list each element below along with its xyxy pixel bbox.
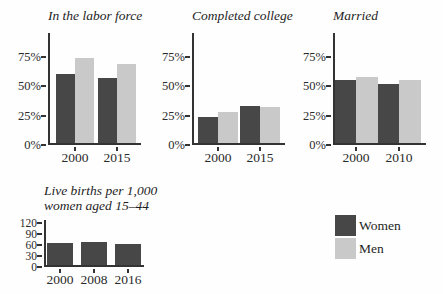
y-tick-label: 50% (303, 78, 326, 94)
y-tick-mark (41, 85, 46, 87)
y-tick-label: 90 (26, 228, 38, 240)
chart-title-line: Live births per 1,000 (44, 183, 144, 198)
y-tick-label: 0% (168, 137, 185, 153)
y-tick-label: 60 (26, 239, 38, 251)
y-tick-mark (326, 56, 331, 58)
chart-labor-force: In the labor force0%25%50%75%20002015 (12, 8, 141, 168)
y-tick-mark (185, 85, 190, 87)
y-tick-mark (37, 222, 42, 224)
x-category-label: 2015 (92, 150, 142, 166)
y-tick-label: 0% (309, 137, 326, 153)
y-axis-line (48, 33, 50, 145)
bar-men-2015 (260, 107, 280, 145)
x-axis-labels: 20002010 (333, 150, 426, 168)
x-axis-line (44, 265, 144, 267)
y-tick-label: 0% (24, 137, 41, 153)
chart-title: Completed college (192, 8, 285, 23)
bar-men-2000 (218, 112, 238, 145)
x-axis-line (48, 143, 141, 145)
y-tick-label: 50% (162, 78, 185, 94)
y-tick-label: 25% (162, 108, 185, 124)
bar-women-2000 (56, 74, 75, 145)
legend-swatch-men (335, 238, 356, 259)
y-tick-label: 25% (18, 108, 41, 124)
y-axis-line (192, 33, 194, 145)
chart-body: 0%25%50%75% (156, 33, 285, 145)
bar-women-2000 (334, 80, 356, 145)
chart-title: Live births per 1,000women aged 15–44 (44, 183, 144, 213)
y-tick-mark (37, 233, 42, 235)
x-category-label: 2016 (103, 272, 153, 288)
legend-item-women: Women (335, 215, 401, 236)
y-tick-mark (185, 56, 190, 58)
plot-area (192, 33, 285, 145)
y-tick-mark (37, 255, 42, 257)
legend-label-men: Men (359, 241, 384, 257)
y-tick-mark (37, 244, 42, 246)
x-axis-line (333, 143, 426, 145)
plot-area (48, 33, 141, 145)
chart-title: In the labor force (48, 8, 141, 23)
y-tick-mark (326, 144, 331, 146)
chart-married: Married0%25%50%75%20002010 (297, 8, 426, 168)
chart-title-line: women aged 15–44 (44, 198, 144, 213)
y-axis-labels: 0%25%50%75% (297, 33, 333, 145)
plot-area (333, 33, 426, 145)
bar-women-2010 (377, 84, 399, 145)
chart-title: Married (309, 8, 402, 23)
y-tick-mark (41, 115, 46, 117)
legend: WomenMen (335, 215, 401, 261)
bar-women-2000 (47, 243, 73, 267)
y-tick-mark (185, 115, 190, 117)
x-category-label: 2010 (374, 150, 424, 166)
bar-women-2008 (81, 242, 107, 267)
y-tick-mark (41, 144, 46, 146)
y-tick-label: 75% (162, 49, 185, 65)
y-axis-line (333, 33, 335, 145)
chart-body: 0%25%50%75% (12, 33, 141, 145)
bar-women-2015 (98, 78, 117, 145)
chart-body: 0306090120 (10, 220, 144, 267)
y-tick-mark (41, 56, 46, 58)
y-tick-label: 25% (303, 108, 326, 124)
y-axis-line (44, 220, 46, 267)
y-tick-mark (326, 115, 331, 117)
plot-area (44, 220, 144, 267)
x-category-label: 2015 (235, 150, 285, 166)
bar-men-2000 (75, 58, 94, 145)
chart-body: 0%25%50%75% (297, 33, 426, 145)
chart-live-births: Live births per 1,000women aged 15–44030… (10, 183, 144, 290)
y-tick-label: 75% (303, 49, 326, 65)
x-axis-labels: 20002015 (48, 150, 141, 168)
bar-women-2016 (115, 244, 141, 267)
y-tick-label: 120 (20, 217, 37, 229)
legend-label-women: Women (359, 218, 401, 234)
y-tick-mark (185, 144, 190, 146)
x-axis-labels: 200020082016 (44, 272, 144, 290)
y-tick-label: 50% (18, 78, 41, 94)
bar-men-2015 (117, 64, 136, 145)
legend-swatch-women (335, 215, 356, 236)
x-axis-line (192, 143, 285, 145)
bar-men-2010 (399, 80, 421, 145)
legend-item-men: Men (335, 238, 401, 259)
y-axis-labels: 0%25%50%75% (156, 33, 192, 145)
bar-men-2000 (356, 77, 378, 145)
bar-women-2000 (198, 117, 218, 145)
y-tick-label: 75% (18, 49, 41, 65)
y-axis-labels: 0%25%50%75% (12, 33, 48, 145)
x-axis-labels: 20002015 (192, 150, 285, 168)
y-tick-mark (37, 266, 42, 268)
chart-completed-college: Completed college0%25%50%75%20002015 (156, 8, 285, 168)
bar-women-2015 (240, 106, 260, 145)
y-tick-label: 30 (26, 250, 38, 262)
figure-canvas: In the labor force0%25%50%75%20002015Com… (0, 0, 443, 294)
y-tick-mark (326, 85, 331, 87)
